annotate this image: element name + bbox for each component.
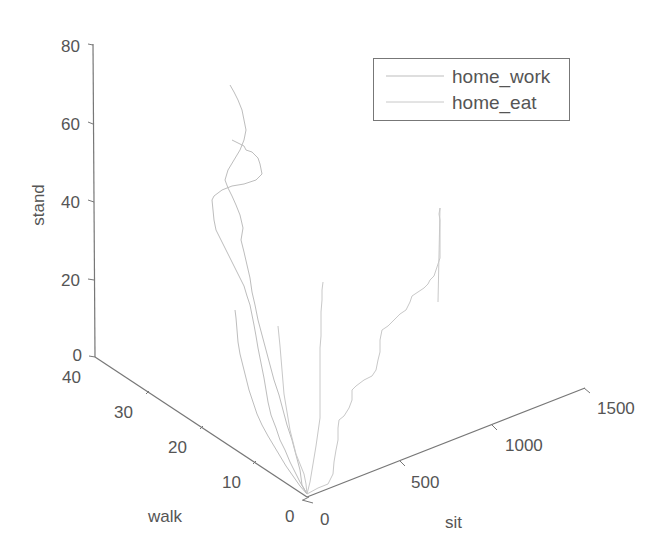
z-axis-label: stand	[29, 184, 48, 226]
z-tick-60: 60	[61, 115, 80, 134]
y-tick-30: 30	[114, 403, 133, 422]
x-tick-1500: 1500	[597, 399, 635, 418]
x-axis: 0 500 1000 1500 sit	[302, 388, 635, 532]
z-tick-20: 20	[61, 271, 80, 290]
x-tick-0: 0	[320, 510, 329, 529]
legend: home_work home_eat	[374, 59, 570, 121]
chart-3d-plot: 80 60 40 20 0 stand 40 30 20 10 0 walk 0…	[0, 0, 671, 560]
x-tick-1000: 1000	[505, 436, 543, 455]
legend-label-home-work: home_work	[452, 66, 551, 88]
series-home-eat	[278, 208, 440, 494]
y-axis: 40 30 20 10 0 walk	[62, 357, 309, 526]
z-tick-0: 0	[73, 346, 82, 365]
y-tick-20: 20	[168, 438, 187, 457]
series-home-work	[212, 85, 307, 494]
y-tick-10: 10	[222, 473, 241, 492]
y-tick-40: 40	[62, 368, 81, 387]
y-tick-0: 0	[285, 507, 294, 526]
y-axis-label: walk	[147, 507, 183, 526]
z-axis: 80 60 40 20 0 stand	[29, 37, 95, 365]
x-tick-500: 500	[411, 473, 439, 492]
legend-label-home-eat: home_eat	[452, 92, 537, 114]
x-axis-label: sit	[445, 513, 462, 532]
z-tick-40: 40	[61, 193, 80, 212]
z-tick-80: 80	[61, 37, 80, 56]
